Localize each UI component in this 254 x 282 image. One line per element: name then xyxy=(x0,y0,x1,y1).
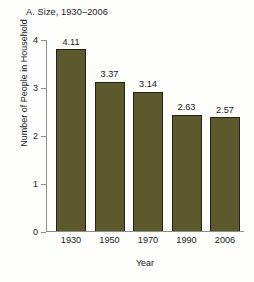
bar-value-label: 3.14 xyxy=(139,80,157,89)
y-tick-label: 4 xyxy=(33,36,38,45)
x-tick-label: 1990 xyxy=(176,236,196,245)
figure-panel: A. Size, 1930–2006 Number of People in H… xyxy=(0,0,254,282)
y-axis-line xyxy=(46,40,47,232)
bar-value-label: 4.11 xyxy=(62,38,79,47)
x-axis-title: Year xyxy=(46,258,244,268)
x-tick-label: 1970 xyxy=(138,236,158,245)
bar-1990 xyxy=(172,115,202,231)
x-tick-label: 1950 xyxy=(99,236,119,245)
x-axis-line xyxy=(46,231,244,232)
bar-value-label: 2.57 xyxy=(216,106,234,115)
y-tick-label: 1 xyxy=(33,180,38,189)
y-tick-mark xyxy=(41,232,46,233)
y-tick-label: 2 xyxy=(33,132,38,141)
bar-1970 xyxy=(133,92,163,231)
bar-2006 xyxy=(210,117,240,230)
y-tick-mark xyxy=(41,88,46,89)
y-tick-mark xyxy=(41,40,46,41)
x-tick-label: 1930 xyxy=(61,236,81,245)
x-tick-label: 2006 xyxy=(215,236,235,245)
bar-value-label: 3.37 xyxy=(101,70,119,79)
y-tick-mark xyxy=(41,184,46,185)
bar-value-label: 2.63 xyxy=(178,103,196,112)
y-tick-mark xyxy=(41,136,46,137)
y-tick-label: 3 xyxy=(33,84,38,93)
plot-area: 0 1 2 3 4 4.11 3.37 3.14 2.63 2.57 1930 … xyxy=(46,40,244,232)
y-tick-label: 0 xyxy=(33,228,38,237)
chart-title: A. Size, 1930–2006 xyxy=(26,7,108,17)
bar-1950 xyxy=(95,82,125,231)
bar-1930 xyxy=(56,49,86,230)
y-axis-title: Number of People in Household xyxy=(19,3,29,163)
